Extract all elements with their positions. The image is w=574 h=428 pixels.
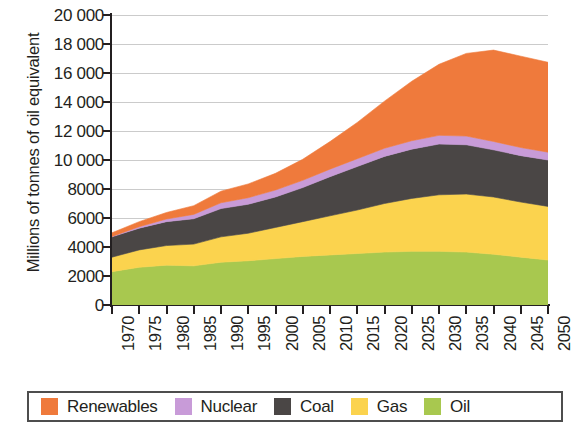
x-axis-tick-label: 2020 xyxy=(392,316,411,351)
y-axis-tick-label: 14 000 xyxy=(18,94,104,111)
x-axis-tick-mark xyxy=(329,305,331,314)
y-axis-tick-labels: 0200040006000800010 00012 00014 00016 00… xyxy=(18,0,104,383)
y-axis-tick-label: 6000 xyxy=(18,210,104,227)
y-axis-tick-label: 20 000 xyxy=(18,7,104,24)
y-axis-tick-mark xyxy=(103,188,112,190)
x-axis-tick-label: 1995 xyxy=(255,316,274,351)
x-axis-tick-mark xyxy=(520,305,522,314)
x-axis-tick-label: 1985 xyxy=(201,316,220,351)
x-axis-tick-mark xyxy=(247,305,249,314)
x-axis-tick-label: 1980 xyxy=(174,316,193,351)
legend-item: Oil xyxy=(424,397,470,417)
x-axis-tick-mark xyxy=(111,305,113,314)
x-axis-tick-mark xyxy=(438,305,440,314)
legend-swatch-icon xyxy=(175,398,192,415)
x-axis-tick-label: 1975 xyxy=(146,316,165,351)
x-axis-tick-label: 2025 xyxy=(419,316,438,351)
y-axis-tick-mark xyxy=(103,101,112,103)
x-axis-tick-label: 1990 xyxy=(228,316,247,351)
stacked-area-chart: Millions of tonnes of oil equivalent 020… xyxy=(0,0,570,383)
legend-swatch-icon xyxy=(41,398,58,415)
y-axis-tick-mark xyxy=(103,130,112,132)
legend-swatch-icon xyxy=(274,398,291,415)
legend-item: Gas xyxy=(351,397,407,417)
legend-item: Nuclear xyxy=(175,397,257,417)
x-axis-tick-label: 2030 xyxy=(446,316,465,351)
y-axis-tick-label: 18 000 xyxy=(18,36,104,53)
plot-area xyxy=(112,15,548,305)
y-axis-tick-mark xyxy=(103,159,112,161)
x-axis-tick-mark xyxy=(193,305,195,314)
y-axis-tick-mark xyxy=(103,217,112,219)
y-axis-tick-label: 8000 xyxy=(18,181,104,198)
x-axis-tick-mark xyxy=(275,305,277,314)
legend-label: Coal xyxy=(300,397,334,417)
legend-label: Gas xyxy=(377,397,407,417)
y-axis-tick-mark xyxy=(103,43,112,45)
legend-label: Renewables xyxy=(67,397,158,417)
legend-swatch-icon xyxy=(351,398,368,415)
x-axis-tick-mark xyxy=(465,305,467,314)
legend-label: Oil xyxy=(450,397,470,417)
x-axis-tick-label: 2005 xyxy=(310,316,329,351)
legend-item: Renewables xyxy=(41,397,158,417)
y-axis-tick-mark xyxy=(103,72,112,74)
x-axis-tick-mark xyxy=(220,305,222,314)
y-axis-tick-label: 2000 xyxy=(18,268,104,285)
y-axis-tick-label: 0 xyxy=(18,297,104,314)
x-axis-tick-label: 2010 xyxy=(337,316,356,351)
x-axis-tick-mark xyxy=(411,305,413,314)
y-axis-tick-label: 4000 xyxy=(18,239,104,256)
x-axis-tick-mark xyxy=(356,305,358,314)
y-axis-tick-mark xyxy=(103,14,112,16)
y-axis-tick-mark xyxy=(103,246,112,248)
x-axis-tick-mark xyxy=(138,305,140,314)
chart-legend: RenewablesNuclearCoalGasOil xyxy=(27,391,563,422)
y-axis-tick-mark xyxy=(103,275,112,277)
x-axis-tick-mark xyxy=(302,305,304,314)
x-axis-tick-label: 2040 xyxy=(501,316,520,351)
x-axis-tick-label: 2045 xyxy=(528,316,547,351)
y-axis-tick-label: 16 000 xyxy=(18,65,104,82)
legend-item: Coal xyxy=(274,397,334,417)
x-axis-tick-label: 2050 xyxy=(555,316,574,351)
y-axis-tick-label: 10 000 xyxy=(18,152,104,169)
x-axis-tick-mark xyxy=(547,305,549,314)
x-axis-tick-mark xyxy=(384,305,386,314)
legend-label: Nuclear xyxy=(201,397,257,417)
x-axis-tick-label: 2015 xyxy=(364,316,383,351)
legend-swatch-icon xyxy=(424,398,441,415)
x-axis-tick-mark xyxy=(493,305,495,314)
x-axis-tick-label: 1970 xyxy=(119,316,138,351)
x-axis-tick-label: 2000 xyxy=(283,316,302,351)
y-axis-tick-label: 12 000 xyxy=(18,123,104,140)
x-axis-tick-label: 2035 xyxy=(473,316,492,351)
x-axis-tick-mark xyxy=(166,305,168,314)
area-series-svg xyxy=(112,15,548,305)
